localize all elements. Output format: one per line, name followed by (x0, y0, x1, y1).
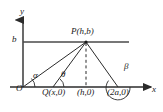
angle-alpha-label: α (33, 71, 38, 80)
point-foot-label: (h,0) (77, 88, 94, 97)
angle-arc-theta (60, 79, 64, 87)
math-figure: y x b O P(h,b) Q(x,0) (h,0) (2a,0) α θ β (0, 0, 163, 112)
point-p-label: P(h,b) (71, 27, 94, 36)
segment-q-to-p (53, 42, 86, 87)
y-axis-label: y (20, 7, 24, 16)
b-tick-label: b (12, 35, 17, 44)
point-2a-label: (2a,0) (107, 88, 129, 97)
origin-label: O (16, 84, 23, 93)
x-axis-label: x (152, 85, 156, 94)
angle-theta-label: θ (61, 70, 65, 79)
point-marker-p (84, 40, 87, 43)
point-q-label: Q(x,0) (42, 88, 65, 97)
angle-beta-label: β (124, 62, 128, 71)
segment-2a-to-p (86, 42, 118, 87)
